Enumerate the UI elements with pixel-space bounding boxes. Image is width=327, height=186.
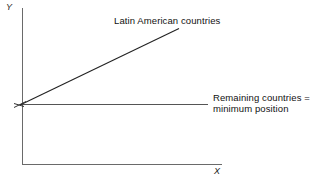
series-label-latin-american-countries: Latin American countries [114,16,220,27]
series-label-remaining-countries: Remaining countries = minimum position [213,93,310,114]
y-axis-label: Y [6,2,12,12]
series-label-remaining-countries-line-2: minimum position [213,104,310,115]
series-label-remaining-countries-line-1: Remaining countries = [213,93,310,104]
chart-figure: Y X Latin American countries Remaining c… [0,0,327,186]
series-line-latin-american-countries [20,29,179,106]
x-axis-label: X [214,166,220,176]
